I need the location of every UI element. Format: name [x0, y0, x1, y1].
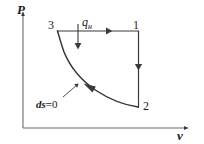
entropy-prefix: ds: [36, 98, 46, 110]
heat-input-label: qн: [82, 16, 92, 31]
p-axis-label: P: [17, 3, 25, 16]
process-2-to-3-arrowhead: [84, 83, 96, 92]
entropy-value: 0: [52, 98, 58, 110]
process-1-to-2-arrowhead: [135, 64, 142, 71]
state-point-label-2: 2: [143, 100, 149, 112]
heat-input-arrowhead: [75, 43, 82, 50]
process-3-to-1-arrowhead: [106, 27, 112, 34]
heat-input-subscript: н: [88, 22, 92, 31]
process-2-to-3-curve: [58, 31, 139, 107]
entropy-annotation-label: ds=0: [36, 99, 58, 110]
state-point-label-1: 1: [133, 19, 139, 31]
pv-diagram-figure: P v 3 1 2 qн ds=0: [0, 0, 204, 144]
v-axis-label: v: [177, 129, 183, 142]
ds-leader-line: [63, 85, 77, 97]
diagram-canvas: [0, 0, 204, 144]
state-point-label-3: 3: [48, 19, 54, 31]
